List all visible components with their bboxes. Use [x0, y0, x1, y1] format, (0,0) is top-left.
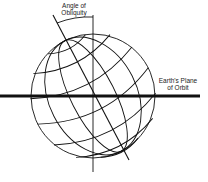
parallel [76, 118, 157, 166]
parallel [54, 93, 161, 156]
angle-of-obliquity-label: Angle of Obliquity [54, 2, 94, 16]
plane-of-orbit-label: Earth's Plane of Orbit [152, 77, 204, 91]
polar-circle [48, 35, 88, 59]
plane-of-orbit-line2: of Orbit [152, 84, 204, 91]
plane-of-orbit-line1: Earth's Plane [152, 77, 204, 84]
angle-of-obliquity-line1: Angle of [54, 2, 94, 9]
parallel [30, 47, 137, 110]
parallel [38, 68, 155, 138]
obliquity-arc [57, 17, 93, 23]
obliquity-diagram [0, 0, 208, 182]
earth-axis-line [53, 15, 129, 160]
angle-of-obliquity-line2: Obliquity [54, 9, 94, 16]
